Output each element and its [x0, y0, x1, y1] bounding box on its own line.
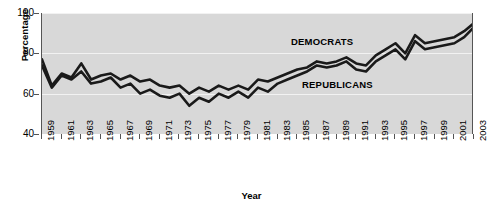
x-tick-mark [139, 134, 140, 139]
x-tick-mark [198, 134, 199, 139]
x-tick-mark [120, 134, 121, 139]
x-tick-label: 1989 [340, 120, 351, 141]
x-tick-label: 1977 [222, 120, 233, 141]
x-tick-label: 1967 [124, 120, 135, 141]
x-tick-mark [218, 134, 219, 139]
x-tick-label: 1981 [261, 120, 272, 141]
x-tick-label: 1997 [418, 120, 429, 141]
annotation-democrats: DEMOCRATS [291, 36, 353, 47]
x-tick-label: 1975 [202, 120, 213, 141]
y-tick-label: 60 [8, 89, 34, 99]
x-tick-mark [237, 134, 238, 139]
x-tick-mark [277, 134, 278, 139]
y-tick-label: 100 [8, 8, 34, 18]
x-tick-mark [434, 134, 435, 139]
y-tick-label: 40 [8, 129, 34, 139]
x-tick-mark [80, 134, 81, 139]
x-tick-label: 1959 [45, 120, 56, 141]
x-tick-label: 1971 [163, 120, 174, 141]
annotation-republicans: REPUBLICANS [302, 79, 373, 90]
x-tick-label: 1991 [359, 120, 370, 141]
x-tick-mark [159, 134, 160, 139]
x-tick-label: 1985 [300, 120, 311, 141]
x-tick-label: 1965 [104, 120, 115, 141]
y-tick-mark [34, 53, 39, 54]
x-tick-label: 1979 [241, 120, 252, 141]
x-tick-mark [178, 134, 179, 139]
x-tick-mark [257, 134, 258, 139]
x-tick-label: 2003 [477, 120, 488, 141]
y-tick-label: 80 [8, 48, 34, 58]
x-tick-mark [41, 134, 42, 139]
y-tick-mark [34, 13, 39, 14]
x-tick-label: 1963 [84, 120, 95, 141]
series-lines [42, 13, 473, 134]
x-axis-title-text: Year [241, 190, 261, 201]
x-tick-mark [355, 134, 356, 139]
x-axis-title: Year [0, 190, 489, 201]
x-tick-label: 1969 [143, 120, 154, 141]
x-tick-label: 1999 [438, 120, 449, 141]
x-tick-mark [296, 134, 297, 139]
series-line-republicans [42, 27, 473, 106]
x-tick-label: 1993 [379, 120, 390, 141]
x-tick-label: 1983 [281, 120, 292, 141]
x-tick-label: 2001 [457, 120, 468, 141]
y-axis-tick-labels: 406080100 [8, 0, 34, 210]
y-tick-mark [34, 134, 39, 135]
x-tick-mark [453, 134, 454, 139]
x-tick-mark [61, 134, 62, 139]
series-line-democrats [42, 23, 473, 94]
x-tick-mark [100, 134, 101, 139]
x-tick-mark [394, 134, 395, 139]
x-tick-mark [316, 134, 317, 139]
plot-area [41, 13, 473, 134]
x-tick-mark [375, 134, 376, 139]
x-tick-mark [336, 134, 337, 139]
y-tick-mark [34, 94, 39, 95]
chart-figure: Percentage 406080100 1959196119631965196… [0, 0, 489, 210]
x-tick-label: 1973 [182, 120, 193, 141]
x-tick-label: 1987 [320, 120, 331, 141]
x-tick-label: 1995 [398, 120, 409, 141]
x-tick-label: 1961 [65, 120, 76, 141]
x-tick-mark [414, 134, 415, 139]
x-tick-mark [473, 134, 474, 139]
